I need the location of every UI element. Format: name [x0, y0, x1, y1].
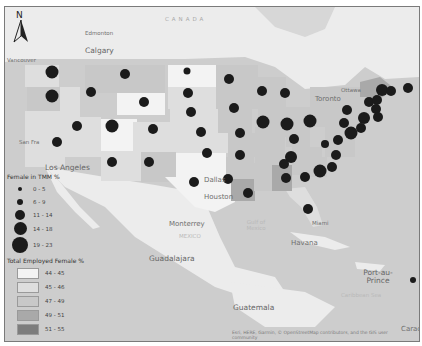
legend-symbol-row: 19 - 23: [7, 236, 81, 254]
legend-class-label: 44 - 45: [45, 270, 64, 276]
legend-symbol-title: Female in TMM %: [7, 173, 81, 180]
place-label-ottawa: Ottawa: [341, 88, 361, 94]
legend-class-label: 47 - 49: [45, 298, 64, 304]
place-label-toronto: Toronto: [315, 96, 341, 103]
legend-class-label: 45 - 46: [45, 284, 64, 290]
north-label: N: [16, 10, 23, 20]
legend-class-row: 44 - 45: [7, 266, 81, 280]
place-label-caracas: Carac: [401, 326, 420, 333]
place-label-houston: Houston: [204, 194, 233, 201]
legend-swatch: [17, 268, 39, 279]
legend-symbol-label: 19 - 23: [33, 242, 52, 248]
legend-symbol-row: 6 - 9: [7, 195, 81, 208]
legend-class-label: 49 - 51: [45, 312, 64, 318]
place-label-los-angeles: Los Angeles: [45, 164, 90, 172]
place-label-san-francisco: San Fra: [19, 140, 40, 146]
place-label-canada: CANADA: [165, 17, 206, 23]
place-label-havana: Havana: [291, 240, 318, 247]
legend-choropleth-title: Total Employed Female %: [7, 257, 81, 264]
legend-symbol-label: 14 - 18: [33, 226, 52, 232]
place-label-guatemala: Guatemala: [233, 304, 274, 312]
legend-class-row: 51 - 55: [7, 322, 81, 336]
place-label-mexico: MEXICO: [179, 234, 201, 240]
legend-symbol-row: 14 - 18: [7, 221, 81, 236]
legend-swatch: [17, 324, 39, 335]
map-legend: Female in TMM % 0 - 5 6 - 9 11 - 14 14 -…: [7, 173, 81, 336]
symbol-dot-icon: [14, 222, 27, 235]
symbol-dot-icon: [17, 199, 23, 205]
place-label-gulf-of-mexico: Gulf of Mexico: [241, 220, 271, 231]
place-label-port-au-prince: Port-au-Prince: [360, 269, 396, 284]
place-label-vancouver: Vancouver: [7, 58, 36, 64]
map-attribution: Esri, HERE, Garmin, © OpenStreetMap cont…: [232, 330, 402, 341]
place-label-monterrey: Monterrey: [169, 221, 205, 228]
north-arrow: N: [13, 10, 29, 44]
legend-symbol-label: 6 - 9: [33, 199, 45, 205]
place-label-guadalajara: Guadalajara: [149, 255, 195, 263]
map-frame[interactable]: N CANADA Edmonton Calgary Vancouver San …: [4, 6, 420, 342]
place-label-calgary: Calgary: [85, 47, 114, 55]
legend-swatch: [17, 296, 39, 307]
legend-class-label: 51 - 55: [45, 326, 64, 332]
place-label-dallas: Dallas: [204, 177, 226, 184]
legend-symbol-label: 11 - 14: [33, 212, 52, 218]
legend-class-row: 47 - 49: [7, 294, 81, 308]
legend-symbol-row: 0 - 5: [7, 182, 81, 195]
place-label-caribbean-sea: Caribbean Sea: [341, 293, 381, 299]
legend-swatch: [17, 282, 39, 293]
legend-symbol-row: 11 - 14: [7, 208, 81, 221]
symbol-dot-icon: [15, 210, 25, 220]
place-label-miami: Miami: [312, 221, 329, 227]
legend-swatch: [17, 310, 39, 321]
legend-class-row: 49 - 51: [7, 308, 81, 322]
symbol-dot-icon: [18, 187, 22, 191]
north-arrow-icon: [13, 20, 29, 44]
legend-class-row: 45 - 46: [7, 280, 81, 294]
symbol-dot-icon: [12, 237, 28, 253]
legend-symbol-label: 0 - 5: [33, 186, 45, 192]
place-label-edmonton: Edmonton: [85, 31, 113, 37]
